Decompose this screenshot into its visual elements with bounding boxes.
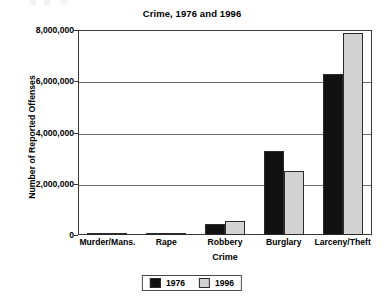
- bar-1996-rape: [166, 233, 186, 235]
- bar-1996-burglary: [284, 171, 304, 235]
- y-axis-tick-label: 6,000,000: [0, 76, 74, 86]
- x-axis-tick-labels: Murder/Mans.RapeRobberyBurglaryLarceny/T…: [78, 237, 372, 247]
- x-axis-tick-label: Rape: [137, 237, 196, 247]
- y-axis-tick-label: 0: [0, 230, 74, 240]
- bar-1996-murder-mans: [107, 233, 127, 235]
- y-axis-tick-label: 2,000,000: [0, 179, 74, 189]
- bar-1976-larceny-theft: [323, 74, 343, 235]
- legend-label-1976: 1976: [166, 278, 185, 288]
- chart-title: Crime, 1976 and 1996: [0, 8, 384, 19]
- x-axis-tick-label: Robbery: [196, 237, 255, 247]
- bar-1976-rape: [146, 233, 166, 235]
- y-axis-tick-label: 8,000,000: [0, 25, 74, 35]
- bar-1976-burglary: [264, 151, 284, 235]
- legend-swatch-1976: [150, 278, 161, 288]
- bar-group: [254, 30, 313, 235]
- legend-entry-1976: 1976: [150, 278, 185, 288]
- x-axis-title: Crime: [78, 252, 372, 262]
- legend-entry-1996: 1996: [199, 278, 234, 288]
- bar-chart-figure: Crime, 1976 and 1996 Number of Reported …: [0, 0, 384, 304]
- x-axis-tick-label: Murder/Mans.: [78, 237, 137, 247]
- y-axis-tick-mark: [74, 235, 78, 236]
- x-axis-tick-label: Larceny/Theft: [313, 237, 372, 247]
- bars-layer: [78, 30, 372, 235]
- bar-1996-larceny-theft: [343, 33, 363, 235]
- legend-label-1996: 1996: [215, 278, 234, 288]
- x-axis-tick-label: Burglary: [254, 237, 313, 247]
- legend-swatch-1996: [199, 278, 210, 288]
- y-axis-tick-label: 4,000,000: [0, 128, 74, 138]
- legend: 19761996: [142, 275, 242, 291]
- bar-group: [78, 30, 137, 235]
- bar-group: [196, 30, 255, 235]
- bar-group: [137, 30, 196, 235]
- y-axis-tick-labels: 02,000,0004,000,0006,000,0008,000,000: [0, 30, 74, 235]
- bar-1976-murder-mans: [87, 233, 107, 235]
- bar-1976-robbery: [205, 224, 225, 235]
- scan-artifact: [30, 0, 150, 5]
- bar-group: [313, 30, 372, 235]
- bar-1996-robbery: [225, 221, 245, 235]
